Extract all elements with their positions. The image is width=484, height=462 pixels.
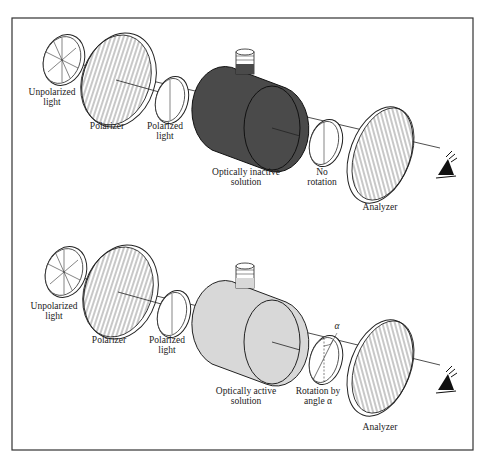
inactive-solution-cylinder (192, 49, 309, 172)
analyzer-disc (335, 311, 426, 425)
label-unpolarized-light: Unpolarized light (26, 301, 82, 321)
label-analyzer: Analyzer (350, 422, 410, 432)
eye-icon (436, 151, 457, 178)
eye-icon (436, 366, 457, 393)
label-rotation: Rotation by angle α (286, 386, 350, 406)
label-rotation: No rotation (297, 167, 347, 187)
polarizer-disc (69, 23, 168, 137)
label-polarizer: Polarizer (82, 121, 132, 131)
active-solution-cylinder (192, 263, 309, 386)
polarimeter-diagram: Unpolarized light Polarizer Polarized li… (0, 0, 484, 462)
rotation-disc (304, 332, 348, 389)
label-solution: Optically inactive solution (200, 167, 292, 187)
analyzer-disc (335, 98, 426, 212)
label-polarized-light: Polarized light (140, 121, 190, 141)
label-analyzer: Analyzer (350, 202, 410, 212)
label-polarizer: Polarizer (84, 335, 134, 345)
no-rotation-disc (304, 116, 347, 171)
label-solution: Optically active solution (200, 386, 292, 406)
polarized-light-disc (152, 287, 195, 342)
label-polarized-light: Polarized light (142, 335, 192, 355)
polarized-light-disc (150, 73, 193, 128)
label-angle-alpha: α (331, 321, 343, 331)
polarizer-disc (71, 235, 170, 349)
label-unpolarized-light: Unpolarized light (24, 87, 80, 107)
